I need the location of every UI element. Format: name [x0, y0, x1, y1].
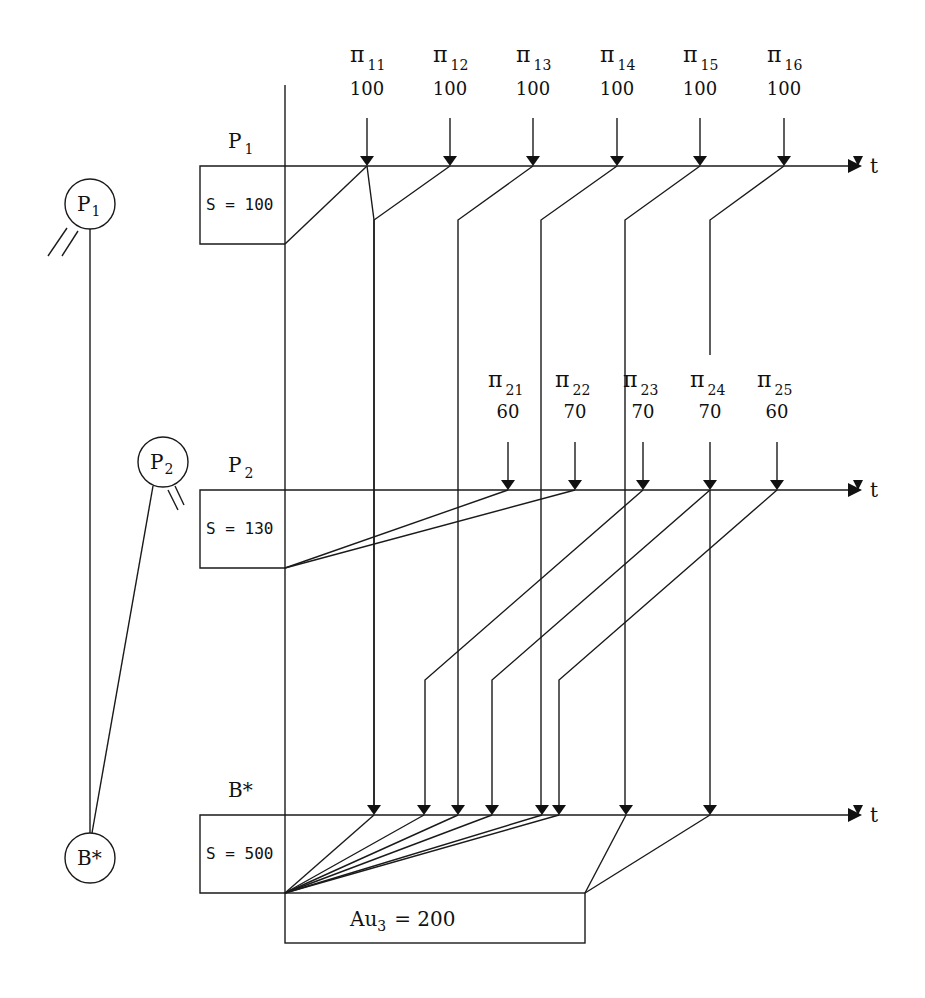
p2-flow-24 — [492, 490, 710, 805]
arrowhead — [777, 156, 791, 166]
p1-flow-16 — [710, 166, 784, 355]
stock-label: S = 130 — [206, 519, 273, 538]
stock-label: S = 100 — [206, 195, 273, 214]
p1-flow-14 — [541, 166, 617, 805]
bstar-arrowhead — [485, 805, 499, 815]
diagram-canvas: P1P2B*tS = 100P1tS = 130P2tS = 500B*π111… — [0, 0, 925, 998]
bstar-credit-line — [285, 815, 492, 893]
p1-link-tick — [62, 231, 78, 256]
node-label: B* — [77, 846, 102, 870]
edge-p2-bstar — [92, 486, 153, 833]
bstar-arrowhead — [417, 805, 431, 815]
bstar-overdraft-line — [585, 815, 710, 893]
node-label: P2 — [150, 450, 173, 477]
payment-label-16: π16 — [767, 42, 802, 73]
payment-label-15: π15 — [683, 42, 718, 73]
axis-arrowhead — [848, 483, 862, 497]
arrowhead — [693, 156, 707, 166]
bstar-arrowhead — [451, 805, 465, 815]
p2-debit-21 — [285, 490, 508, 568]
p2-flow-25 — [559, 490, 777, 805]
bstar-credit-line — [285, 815, 374, 893]
time-axis-label: t — [870, 803, 878, 827]
payment-label-21: π21 — [488, 367, 523, 398]
axis-arrowhead — [848, 159, 862, 173]
payment-label-13: π13 — [516, 42, 551, 73]
p1-flow-15 — [625, 166, 700, 805]
bstar-arrowhead — [619, 805, 633, 815]
bstar-arrowhead — [535, 805, 549, 815]
p1-flow-11 — [367, 166, 374, 805]
payment-label-12: π12 — [433, 42, 468, 73]
lane-title: P2 — [228, 453, 253, 481]
arrowhead — [636, 480, 650, 490]
node-label: P1 — [77, 192, 100, 219]
payment-amount: 100 — [350, 78, 384, 99]
arrowhead — [568, 480, 582, 490]
payment-label-24: π24 — [690, 367, 725, 398]
payment-amount: 100 — [600, 78, 634, 99]
bstar-arrowhead — [552, 805, 566, 815]
payment-amount: 70 — [632, 401, 655, 422]
time-axis-label: t — [870, 154, 878, 178]
p2-link-tick — [168, 490, 178, 510]
payment-amount: 100 — [683, 78, 717, 99]
bstar-credit-line — [285, 815, 559, 893]
overdraft-label: Au3= 200 — [349, 907, 456, 934]
payment-label-23: π23 — [623, 367, 658, 398]
p1-first-debit — [285, 166, 367, 244]
arrowhead — [770, 480, 784, 490]
payment-label-22: π22 — [555, 367, 590, 398]
bstar-overdraft-line — [585, 815, 626, 893]
stock-label: S = 500 — [206, 844, 273, 863]
payment-amount: 70 — [564, 401, 587, 422]
payment-amount: 60 — [766, 401, 789, 422]
payment-amount: 60 — [497, 401, 520, 422]
payment-label-25: π25 — [757, 367, 792, 398]
axis-arrowhead — [848, 808, 862, 822]
time-axis-label: t — [870, 478, 878, 502]
bstar-arrowhead — [703, 805, 717, 815]
arrowhead — [703, 480, 717, 490]
payment-label-11: π11 — [350, 42, 385, 73]
static-layer: P1P2B*tS = 100P1tS = 130P2tS = 500B*π111… — [48, 42, 878, 943]
payment-amount: 100 — [516, 78, 550, 99]
arrowhead — [526, 156, 540, 166]
lane-title: P1 — [228, 129, 253, 157]
arrowhead — [443, 156, 457, 166]
p2-debit-22 — [285, 490, 575, 568]
payment-amount: 70 — [699, 401, 722, 422]
p2-link-tick — [175, 486, 184, 505]
lane-title: B* — [228, 778, 253, 802]
arrowhead — [360, 156, 374, 166]
payment-label-14: π14 — [600, 42, 635, 73]
payment-amount: 100 — [433, 78, 467, 99]
bstar-credit-line — [285, 815, 458, 893]
p1-flow-12 — [374, 166, 450, 805]
payment-diagram: P1P2B*tS = 100P1tS = 130P2tS = 500B*π111… — [0, 0, 925, 998]
p1-flow-13 — [458, 166, 533, 805]
payment-amount: 100 — [767, 78, 801, 99]
bstar-arrowhead — [367, 805, 381, 815]
bstar-credit-line — [285, 815, 424, 893]
arrowhead — [610, 156, 624, 166]
arrowhead — [501, 480, 515, 490]
